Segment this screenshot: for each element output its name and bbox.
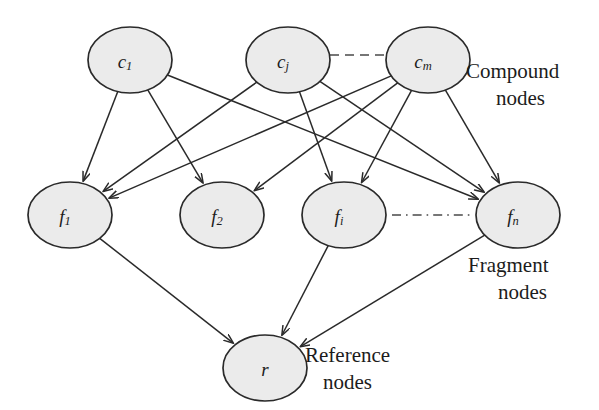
node-fi[interactable]: fi	[302, 182, 386, 248]
edge-c1-to-f1	[83, 92, 117, 181]
group-label-fragment-line2: nodes	[498, 280, 547, 304]
edge-c1-to-f2	[148, 90, 203, 183]
node-graph-svg: c1cjcmf1f2fifnr CompoundnodesFragmentnod…	[0, 0, 599, 410]
edge-f1-to-r	[100, 238, 233, 343]
group-label-compound-line2: nodes	[496, 86, 545, 110]
group-label-fragment-line1: Fragment	[468, 253, 549, 277]
edge-cj-to-f1	[104, 82, 257, 191]
node-fn[interactable]: fn	[476, 182, 560, 248]
node-f2[interactable]: f2	[180, 182, 264, 248]
group-label-reference-line1: Reference	[305, 343, 390, 367]
group-label-compound: Compoundnodes	[466, 59, 560, 110]
edge-cm-to-f1	[110, 76, 392, 198]
node-cm[interactable]: cm	[386, 27, 470, 93]
group-label-reference-line2: nodes	[323, 370, 372, 394]
edge-cj-to-fn	[320, 81, 484, 191]
nodes-layer: c1cjcmf1f2fifnr	[28, 27, 560, 401]
diagram-canvas: c1cjcmf1f2fifnr CompoundnodesFragmentnod…	[0, 0, 599, 410]
group-label-compound-line1: Compound	[466, 59, 560, 83]
node-cj[interactable]: cj	[246, 27, 330, 93]
node-shape-fi	[302, 182, 386, 248]
node-r[interactable]: r	[223, 335, 307, 401]
node-label-r: r	[261, 359, 269, 380]
edges-layer	[83, 75, 499, 346]
edge-cm-to-fn	[445, 90, 499, 182]
edge-fn-to-r	[301, 235, 485, 346]
node-c1[interactable]: c1	[88, 27, 172, 93]
edge-cm-to-f2	[255, 83, 398, 191]
node-f1[interactable]: f1	[28, 182, 112, 248]
group-label-reference: Referencenodes	[305, 343, 390, 394]
group-label-fragment: Fragmentnodes	[468, 253, 549, 304]
edge-fi-to-r	[282, 246, 328, 335]
